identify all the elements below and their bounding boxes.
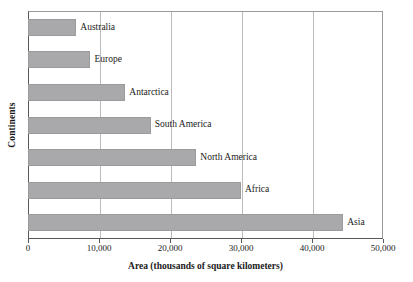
bar-category-label: North America xyxy=(196,153,257,163)
bar[interactable] xyxy=(28,84,125,101)
y-axis-title-label: Continents xyxy=(7,102,17,147)
bar-category-label: Africa xyxy=(241,185,269,195)
bar-category-label: Antarctica xyxy=(125,88,169,98)
bar-category-label: South America xyxy=(151,120,212,130)
x-axis-title-label: Area (thousands of square kilometers) xyxy=(128,261,283,271)
x-tick-label: 50,000 xyxy=(371,243,396,253)
y-axis-title: Continents xyxy=(0,0,24,250)
bar-category-label: Asia xyxy=(343,218,364,228)
bar[interactable] xyxy=(28,149,196,166)
bar-chart: Continents AustraliaEuropeAntarcticaSout… xyxy=(0,0,413,282)
x-tick-label: 20,000 xyxy=(158,243,183,253)
bar-category-label: Australia xyxy=(76,23,115,33)
bar[interactable] xyxy=(28,182,241,199)
bar-row[interactable]: Africa xyxy=(28,182,269,199)
x-axis-title: Area (thousands of square kilometers) xyxy=(28,261,383,271)
x-tick-label: 0 xyxy=(26,243,31,253)
x-tick-label: 30,000 xyxy=(229,243,254,253)
bar[interactable] xyxy=(28,19,76,36)
bar-category-label: Europe xyxy=(90,55,121,65)
bars-layer: AustraliaEuropeAntarcticaSouth AmericaNo… xyxy=(28,11,383,239)
bar-row[interactable]: Asia xyxy=(28,214,365,231)
x-tick-label: 40,000 xyxy=(300,243,325,253)
bar-row[interactable]: North America xyxy=(28,149,257,166)
bar[interactable] xyxy=(28,51,90,68)
bar-row[interactable]: Antarctica xyxy=(28,84,169,101)
bar[interactable] xyxy=(28,214,343,231)
bar-row[interactable]: Australia xyxy=(28,19,115,36)
bar-row[interactable]: Europe xyxy=(28,51,122,68)
bar[interactable] xyxy=(28,117,151,134)
bar-row[interactable]: South America xyxy=(28,117,212,134)
x-tick-label: 10,000 xyxy=(87,243,112,253)
